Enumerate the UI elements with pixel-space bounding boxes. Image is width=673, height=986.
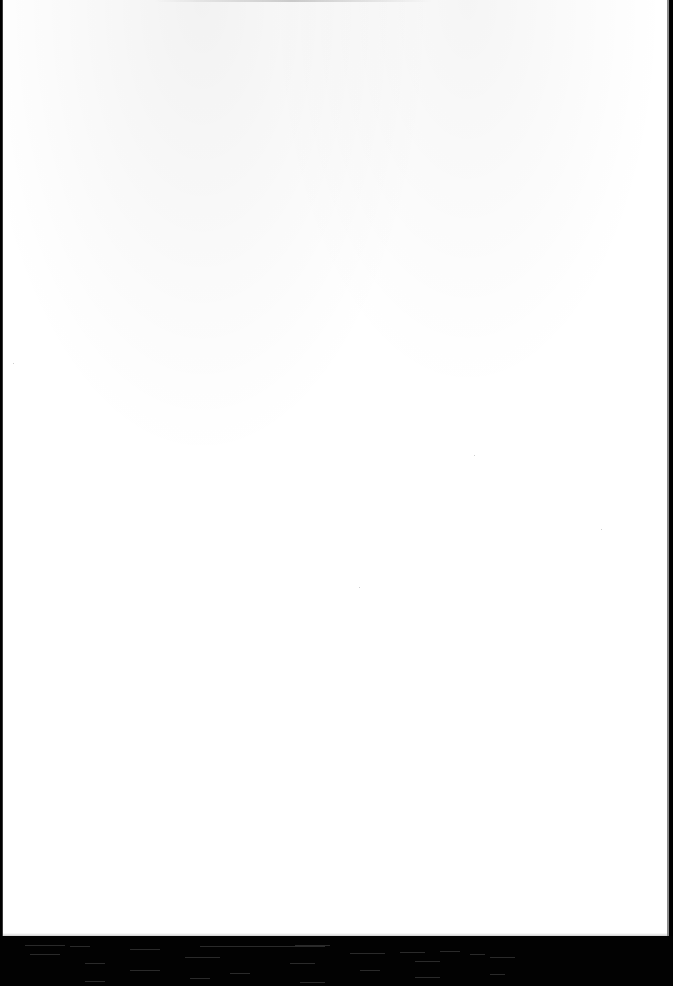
- scan-streak: [25, 945, 65, 946]
- scan-streak: [470, 954, 485, 955]
- scan-streak: [360, 970, 380, 971]
- scan-streak: [185, 957, 220, 958]
- scan-streak: [130, 949, 160, 950]
- dust-speck: [601, 529, 602, 530]
- scan-streak: [290, 963, 315, 964]
- scan-streak: [400, 952, 425, 953]
- scan-streak: [490, 957, 515, 958]
- blank-page: [2, 0, 669, 936]
- scan-streak: [300, 982, 325, 983]
- scan-streak: [70, 946, 90, 947]
- page-top-shadow: [153, 0, 433, 2]
- scan-streak: [230, 973, 250, 974]
- dust-speck: [474, 455, 475, 456]
- scan-streak: [415, 977, 440, 978]
- scan-streak: [295, 945, 330, 946]
- scan-streak: [415, 961, 440, 962]
- scanned-document: [0, 0, 673, 986]
- scan-streak: [440, 951, 460, 952]
- scan-streak: [85, 963, 105, 964]
- dust-speck: [13, 363, 14, 364]
- scan-streak: [130, 970, 160, 971]
- scan-streak: [85, 981, 105, 982]
- dust-speck: [359, 587, 360, 588]
- scan-streak: [490, 974, 505, 975]
- scan-streak: [200, 946, 325, 947]
- scan-streak: [30, 954, 60, 955]
- scan-streak: [350, 953, 385, 954]
- scan-streak: [190, 978, 210, 979]
- scanner-bed-strip: [0, 936, 673, 986]
